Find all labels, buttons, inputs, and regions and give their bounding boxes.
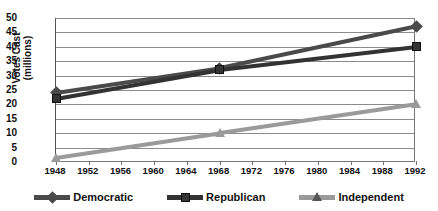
chart-legend: DemocraticRepublicanIndependent <box>0 186 438 208</box>
legend-swatch <box>299 195 335 200</box>
plot-frame <box>55 18 415 162</box>
gridline <box>56 76 414 77</box>
data-point-independent <box>51 153 61 162</box>
y-tick-label: 40 <box>0 42 17 52</box>
legend-swatch <box>34 195 70 200</box>
gridline <box>56 104 414 105</box>
legend-swatch <box>167 195 203 200</box>
y-tick-label: 20 <box>0 99 17 109</box>
data-marker-diamond <box>46 191 59 204</box>
y-tick-label: 45 <box>0 27 17 37</box>
data-point-independent <box>215 128 225 137</box>
data-point-democratic <box>410 20 423 33</box>
data-marker-square <box>181 193 190 202</box>
y-tick-label: 35 <box>0 56 17 66</box>
data-point-republican <box>215 65 224 74</box>
y-tick-label: 5 <box>0 143 17 153</box>
legend-label: Democratic <box>73 191 133 203</box>
series-line-independent <box>56 131 220 159</box>
y-tick-label: 15 <box>0 114 17 124</box>
legend-label: Independent <box>338 191 403 203</box>
gridline <box>56 32 414 33</box>
y-tick-label: 30 <box>0 71 17 81</box>
gridline <box>56 119 414 120</box>
data-marker-triangle <box>312 192 322 201</box>
y-tick-label: 50 <box>0 13 17 23</box>
data-point-independent <box>411 99 421 108</box>
data-point-republican <box>412 42 421 51</box>
data-point-republican <box>52 94 61 103</box>
y-tick-label: 0 <box>0 157 17 167</box>
plot-area <box>55 18 415 162</box>
x-tick-label: 1992 <box>395 165 435 176</box>
series-line-republican <box>56 68 220 101</box>
y-tick-label: 25 <box>0 85 17 95</box>
y-axis-title-line2: (millions) <box>22 36 33 80</box>
gridline <box>56 133 414 134</box>
y-tick-label: 10 <box>0 128 17 138</box>
chart-figure: Votes Cast (millions) 504540353025201510… <box>0 0 438 211</box>
gridline <box>56 47 414 48</box>
legend-item-democratic[interactable]: Democratic <box>34 191 133 203</box>
gridline <box>56 18 414 19</box>
legend-item-independent[interactable]: Independent <box>299 191 403 203</box>
legend-item-republican[interactable]: Republican <box>167 191 265 203</box>
legend-label: Republican <box>206 191 265 203</box>
